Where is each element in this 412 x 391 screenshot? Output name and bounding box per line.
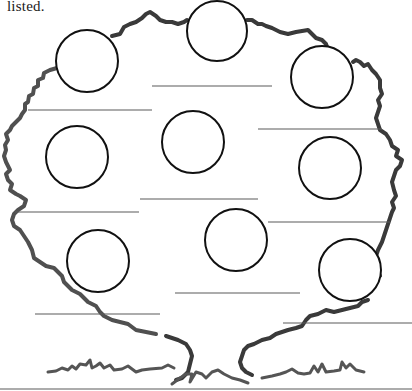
grass-left xyxy=(48,360,174,372)
tree-canopy-outline-left xyxy=(4,68,156,334)
grass-right xyxy=(262,362,364,378)
name-circle-8[interactable] xyxy=(205,209,267,271)
name-circle-5[interactable] xyxy=(162,111,224,173)
name-circle-9[interactable] xyxy=(319,239,381,301)
name-circle-4[interactable] xyxy=(46,126,108,188)
tree-canopy-outline-top xyxy=(112,12,402,375)
tree-worksheet xyxy=(0,0,412,391)
name-circle-7[interactable] xyxy=(67,230,129,292)
name-circle-1[interactable] xyxy=(56,30,118,92)
name-circle-3[interactable] xyxy=(291,46,353,108)
name-circle-2[interactable] xyxy=(187,1,247,61)
tree-roots xyxy=(172,370,248,384)
name-circle-6[interactable] xyxy=(299,137,361,199)
